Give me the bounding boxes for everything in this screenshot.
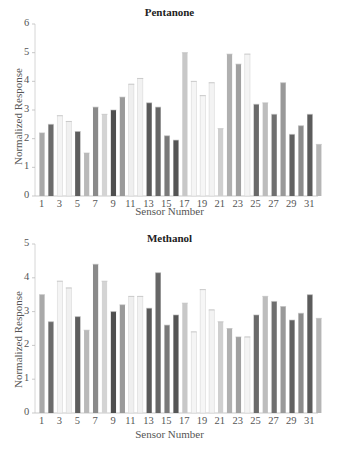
bar <box>298 313 303 413</box>
y-tick-label: 3 <box>24 305 29 316</box>
bar <box>111 312 116 413</box>
bar <box>75 317 80 413</box>
bar <box>93 264 98 413</box>
bar <box>173 315 178 413</box>
bar <box>155 273 160 413</box>
methanol-chart: Methanol Normalized Response Sensor Numb… <box>0 0 339 459</box>
x-tick-label: 7 <box>93 415 98 426</box>
bar <box>289 320 294 413</box>
bar <box>129 296 134 413</box>
bar <box>200 290 205 413</box>
x-tick-label: 9 <box>110 415 115 426</box>
bar <box>120 305 125 413</box>
bar <box>227 329 232 414</box>
bar <box>57 281 62 413</box>
bar-plot <box>0 0 339 459</box>
x-tick-label: 19 <box>197 415 208 426</box>
bar <box>263 296 268 413</box>
y-tick-label: 5 <box>24 237 29 248</box>
x-tick-label: 1 <box>39 415 44 426</box>
x-tick-label: 27 <box>268 415 279 426</box>
x-tick-label: 5 <box>75 415 80 426</box>
x-tick-label: 25 <box>250 415 261 426</box>
y-tick-label: 0 <box>24 406 29 417</box>
bar <box>272 301 277 413</box>
x-tick-label: 15 <box>161 415 172 426</box>
x-tick-label: 29 <box>286 415 297 426</box>
x-tick-label: 11 <box>125 415 135 426</box>
bar <box>281 307 286 413</box>
x-tick-label: 3 <box>57 415 62 426</box>
x-tick-label: 21 <box>215 415 226 426</box>
bar <box>316 318 321 413</box>
bar <box>147 308 152 413</box>
bar <box>191 332 196 413</box>
x-tick-label: 13 <box>143 415 154 426</box>
bar <box>66 288 71 413</box>
bar <box>209 310 214 413</box>
bar <box>48 322 53 413</box>
y-tick-label: 2 <box>24 338 29 349</box>
x-tick-label: 17 <box>179 415 190 426</box>
bar <box>102 281 107 413</box>
bar <box>218 322 223 413</box>
x-tick-label: 23 <box>232 415 243 426</box>
bar <box>138 296 143 413</box>
bar <box>254 315 259 413</box>
x-tick-label: 31 <box>304 415 315 426</box>
bar <box>164 325 169 413</box>
bar <box>307 295 312 413</box>
bar <box>182 303 187 413</box>
bar <box>245 337 250 413</box>
bar <box>39 295 44 413</box>
y-tick-label: 4 <box>24 271 29 282</box>
bar <box>84 330 89 413</box>
bar <box>236 337 241 413</box>
y-tick-label: 1 <box>24 372 29 383</box>
